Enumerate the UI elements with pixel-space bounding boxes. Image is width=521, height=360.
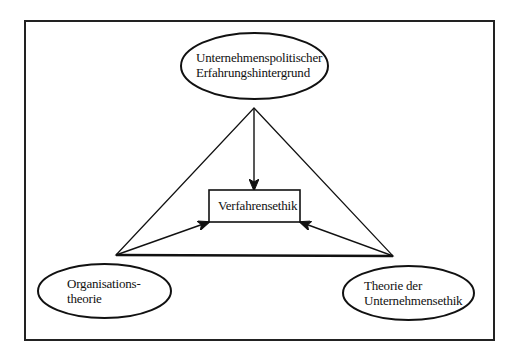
node-label-top: Unternehmenspolitischer Erfahrungshinter…: [196, 50, 322, 80]
arrow-right-to-center: [300, 222, 393, 256]
node-right-line-1: Theorie der: [364, 278, 462, 293]
triangle-base-line: [116, 255, 393, 256]
node-left-line-1: Organisations-: [67, 276, 141, 291]
arrow-left-to-center: [116, 222, 209, 255]
node-label-left: Organisations- theorie: [67, 276, 141, 306]
node-top-line-2: Erfahrungshintergrund: [196, 65, 322, 80]
node-label-right: Theorie der Unternehmensethik: [364, 278, 462, 308]
center-box-label: Verfahrensethik: [218, 198, 297, 213]
node-left-line-2: theorie: [67, 291, 141, 306]
center-box-text: Verfahrensethik: [218, 198, 297, 213]
node-right-line-2: Unternehmensethik: [364, 293, 462, 308]
node-top-line-1: Unternehmenspolitischer: [196, 50, 322, 65]
